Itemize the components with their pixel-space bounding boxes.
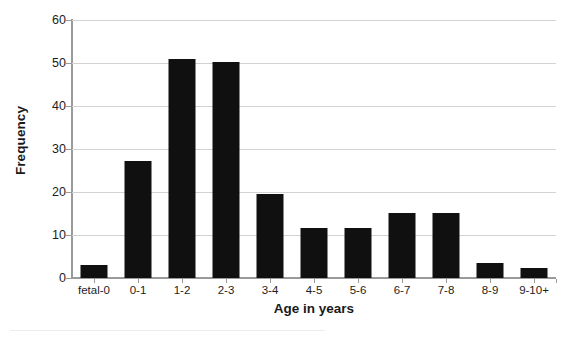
bar-slot [160,20,204,278]
x-tick-mark [556,279,557,283]
bar-slot [512,20,556,278]
scan-artifact [10,330,325,331]
bar [169,59,196,278]
x-tick-mark [402,279,403,283]
x-tick-mark [270,279,271,283]
bar-slot [468,20,512,278]
x-tick-mark [182,279,183,283]
y-tick-label: 30 [18,142,72,156]
x-tick-mark [490,279,491,283]
bar [301,228,328,278]
bar-slot [380,20,424,278]
x-tick-label: 7-8 [438,284,455,296]
x-tick-label: 9-10+ [519,284,549,296]
bar [389,213,416,278]
x-tick-label: 6-7 [394,284,411,296]
bar-slot [248,20,292,278]
y-tick-label: 40 [18,99,72,113]
y-tick-label: 50 [18,56,72,70]
bar-slot [204,20,248,278]
bar-series [72,20,556,278]
bar [433,213,460,278]
x-tick-mark [314,279,315,283]
y-tick-label: 20 [18,185,72,199]
y-tick-label: 10 [18,228,72,242]
bar [521,268,548,278]
x-tick-mark [226,279,227,283]
bar-chart: Frequency 0102030405060 fetal-00-11-22-3… [0,0,579,339]
bar-slot [116,20,160,278]
y-tick-label: 0 [18,271,72,285]
bar [477,263,504,278]
x-tick-label: 2-3 [218,284,235,296]
bar-slot [72,20,116,278]
x-tick-label: 0-1 [130,284,147,296]
x-tick-mark [138,279,139,283]
x-tick-label: 1-2 [174,284,191,296]
bar [257,194,284,278]
y-axis-ticks: 0102030405060 [0,0,72,339]
bar-slot [424,20,468,278]
bar-slot [292,20,336,278]
x-tick-label: fetal-0 [78,284,110,296]
bar [345,228,372,278]
x-tick-mark [94,279,95,283]
bar [125,161,152,278]
x-tick-mark [358,279,359,283]
x-tick-label: 5-6 [350,284,367,296]
x-tick-label: 3-4 [262,284,279,296]
x-tick-mark [446,279,447,283]
bar [213,62,240,278]
x-tick-label: 4-5 [306,284,323,296]
bar-slot [336,20,380,278]
bar [81,265,108,278]
x-tick-label: 8-9 [482,284,499,296]
plot-area [72,20,556,278]
x-axis-title: Age in years [72,301,556,316]
y-tick-label: 60 [18,13,72,27]
x-tick-mark [534,279,535,283]
